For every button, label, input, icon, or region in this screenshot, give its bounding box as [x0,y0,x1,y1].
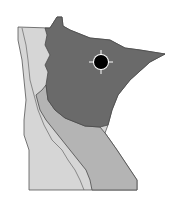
minnesota-region-map [0,0,175,209]
region-laurentian-forest [45,17,165,127]
